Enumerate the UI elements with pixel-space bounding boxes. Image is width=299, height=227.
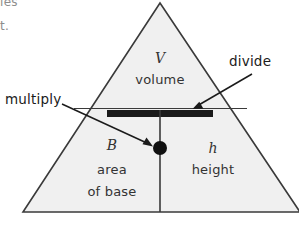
divide-callout-label: divide: [229, 55, 271, 69]
multiply-dot: [153, 141, 167, 155]
diagram-page: les t. V volume B area of base h height …: [0, 0, 299, 227]
volume-symbol: V: [155, 51, 165, 65]
height-symbol: h: [208, 141, 217, 155]
base-area-symbol: B: [107, 138, 117, 152]
multiply-callout-label: multiply: [5, 93, 61, 107]
base-area-label-line2: of base: [87, 185, 136, 198]
base-area-label-line1: area: [97, 163, 127, 176]
triangle-shape: [23, 3, 299, 212]
height-label: height: [192, 163, 235, 176]
volume-label: volume: [135, 73, 184, 86]
formula-triangle-graphic: [0, 0, 299, 227]
